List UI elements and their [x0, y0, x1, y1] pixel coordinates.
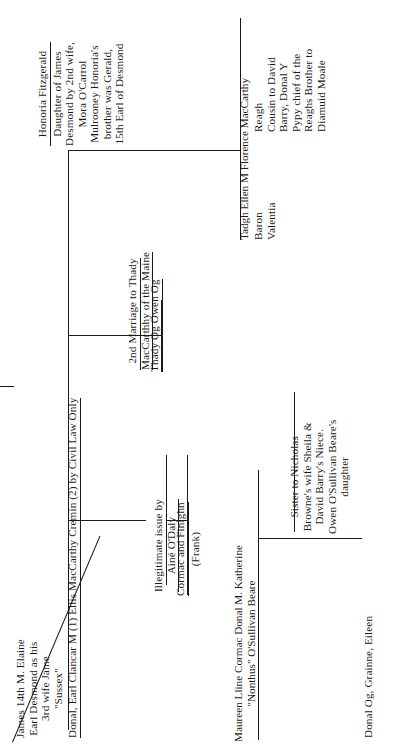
florence-detail-line-5: Diamuid Moale: [315, 49, 328, 132]
florence-siblings-label: Tadgh Ellen M Florence MacCarthy: [238, 78, 251, 240]
second-marriage-line-0: 2nd Marriage to Thady: [126, 252, 139, 370]
genealogy-chart-page: James 14th M. Elaine Earl Desmond as his…: [0, 0, 399, 746]
grandchildren-label: Donal Og, Grainne, Eileen: [362, 616, 375, 738]
node-florence-detail: Reagh Cousin to David Barry, Donal Y Pyp…: [252, 49, 327, 132]
left-edge-tick: [0, 386, 14, 387]
cormac-finighn-line-0: Cormac and Finighn: [174, 502, 189, 596]
katherine-detail-line-2: David Barry's Niece.: [313, 420, 326, 534]
node-donal-earl-clancar: Donal, Earl Clancar M (1) Ellis MacCarth…: [66, 398, 81, 738]
thady-owen-label: Thady Og Owen Og: [148, 279, 163, 372]
spine-children-row: [258, 470, 259, 740]
honoria-line-3: Mulrooney Honoria's: [88, 42, 101, 146]
branch-to-honoria: [68, 150, 136, 151]
children-row-line-0: Maureen Lline Cormac Donal M. Katherine: [232, 545, 245, 742]
florence-detail-line-2: Barry, Donal Y: [277, 49, 290, 132]
branch-to-grandchildren: [258, 538, 362, 539]
children-row-line-1: "Nonthus" O'Sullivan Beare: [245, 545, 258, 742]
honoria-line-0: Daughter of James: [51, 42, 64, 146]
node-grandchildren: Donal Og, Grainne, Eileen: [362, 616, 375, 738]
florence-detail-line-1: Cousin to David: [265, 49, 278, 132]
florence-detail-line-0: Reagh: [252, 49, 265, 132]
james-desmond-line-1: Earl Desmond as his: [27, 639, 40, 738]
node-florence-siblings: Tadgh Ellen M Florence MacCarthy: [238, 78, 251, 240]
james-desmond-line-2: 3rd wife Jame: [39, 639, 52, 738]
florence-detail-line-3: Pypy chief of the: [290, 49, 303, 132]
florence-detail-line-4: Reaghs Brother to: [302, 49, 315, 132]
katherine-detail-line-4: daughter: [338, 420, 351, 534]
donal-earl-clancar-label: Donal, Earl Clancar M (1) Ellis MacCarth…: [66, 398, 81, 738]
honoria-line-2: Mora O'Carrol: [76, 42, 89, 146]
node-cormac-finighn: Cormac and Finighn (Frank): [174, 502, 201, 596]
node-thady-og-owen-og: Thady Og Owen Og: [148, 279, 163, 372]
node-katherine-detail: Sister to Nicholas Browne's wife Sheila …: [288, 420, 351, 534]
james-desmond-line-0: James 14th M. Elaine: [14, 639, 27, 738]
illegitimate-line-0: Illegitimate issue by: [152, 499, 165, 592]
katherine-detail-line-0: Sister to Nicholas: [288, 420, 301, 534]
honoria-line-5: 15th Earl of Desmond: [113, 42, 126, 146]
node-honoria-fitzgerald: Honoria Fitzgerald Daughter of James Des…: [36, 42, 126, 146]
katherine-detail-line-1: Browne's wife Sheila &: [301, 420, 314, 534]
honoria-line-4: brother was Gerald,: [101, 42, 114, 146]
node-james-desmond: James 14th M. Elaine Earl Desmond as his…: [14, 639, 64, 738]
katherine-detail-line-3: Owen O'Sullivan Beare's: [326, 420, 339, 534]
valentia-label: Valentia: [265, 203, 278, 240]
cormac-finighn-line-1: (Frank): [189, 502, 202, 596]
james-desmond-line-3: "Sussex": [52, 639, 65, 738]
node-children-row: Maureen Lline Cormac Donal M. Katherine …: [232, 545, 257, 742]
baron-label: Baron: [252, 203, 265, 240]
node-baron-valentia: Baron Valentia: [252, 203, 277, 240]
honoria-fitzgerald-heading: Honoria Fitzgerald: [36, 42, 51, 146]
branch-honoria-to-florence: [135, 150, 240, 151]
honoria-line-1: Desmond by 2nd wife,: [63, 42, 76, 146]
